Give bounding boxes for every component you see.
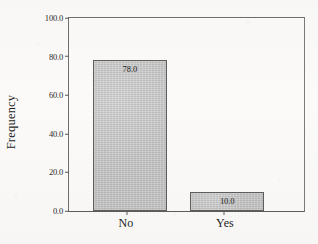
y-tick-80: 80.0 xyxy=(49,52,69,61)
y-tick-mark xyxy=(65,133,69,134)
x-axis-label-yes: Yes xyxy=(216,216,234,231)
bar-yes[interactable]: 10.0 xyxy=(190,192,264,211)
y-tick-label: 60.0 xyxy=(49,91,65,100)
y-tick-label: 100.0 xyxy=(45,14,65,23)
y-tick-label: 0.0 xyxy=(53,207,65,216)
y-tick-label: 40.0 xyxy=(49,130,65,139)
y-tick-label: 80.0 xyxy=(49,52,65,61)
x-tick-mark-no xyxy=(126,211,127,215)
x-tick-mark-yes xyxy=(224,211,225,215)
y-tick-mark xyxy=(65,56,69,57)
y-axis-title: Frequency xyxy=(4,95,19,150)
y-tick-mark xyxy=(65,95,69,96)
x-axis-label-no: No xyxy=(119,216,134,231)
bar-no[interactable]: 78.0 xyxy=(93,60,167,211)
y-tick-label: 20.0 xyxy=(49,168,65,177)
y-tick-mark xyxy=(65,211,69,212)
bar-value-label: 10.0 xyxy=(220,197,234,206)
bar-value-label: 78.0 xyxy=(123,65,137,74)
y-tick-mark xyxy=(65,18,69,19)
y-tick-100: 100.0 xyxy=(45,14,69,23)
y-tick-20: 20.0 xyxy=(49,168,69,177)
y-tick-40: 40.0 xyxy=(49,130,69,139)
y-tick-60: 60.0 xyxy=(49,91,69,100)
chart-figure: Frequency 100.0 80.0 60.0 40.0 20.0 0.0 xyxy=(0,0,318,244)
plot-area: 100.0 80.0 60.0 40.0 20.0 0.0 78.0 xyxy=(68,17,305,212)
y-tick-0: 0.0 xyxy=(53,207,69,216)
y-tick-mark xyxy=(65,172,69,173)
